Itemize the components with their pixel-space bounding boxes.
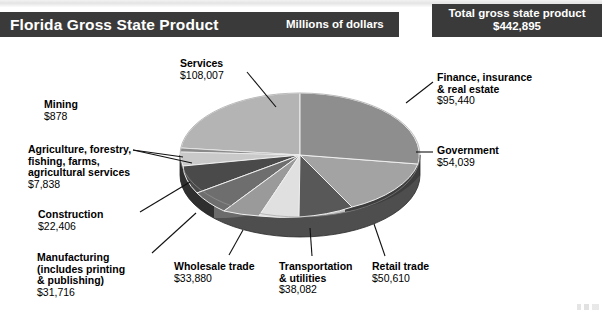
leader-wholesale xyxy=(229,230,243,255)
pie-slice-finance xyxy=(300,93,419,164)
label-services: Services $108,007 xyxy=(180,58,224,81)
label-manufacturing: Manufacturing (includes printing & publi… xyxy=(37,252,125,298)
leader-construction xyxy=(140,182,190,212)
label-mining: Mining $878 xyxy=(44,99,78,122)
pie-slice-services xyxy=(181,93,300,155)
label-construction-value: $22,406 xyxy=(38,221,103,233)
page-corner-artifact xyxy=(577,304,599,310)
label-government-name: Government xyxy=(437,145,499,157)
label-retail-trade-value: $50,610 xyxy=(372,273,429,285)
label-finance: Finance, insurance & real estate $95,440 xyxy=(437,72,532,107)
label-finance-value: $95,440 xyxy=(437,95,532,107)
label-wholesale-trade-value: $33,880 xyxy=(174,273,255,285)
label-agriculture: Agriculture, forestry, fishing, farms, a… xyxy=(28,144,131,190)
label-services-name: Services xyxy=(180,58,224,70)
label-manufacturing-name-1: Manufacturing xyxy=(37,252,125,264)
label-mining-name: Mining xyxy=(44,99,78,111)
label-transportation-value: $38,082 xyxy=(279,284,353,296)
leader-retail xyxy=(374,224,385,256)
label-transportation-name-1: Transportation xyxy=(279,261,353,273)
leader-manufacturing xyxy=(152,213,196,253)
label-wholesale-trade-name: Wholesale trade xyxy=(174,261,255,273)
label-agriculture-name-3: agricultural services xyxy=(28,167,131,179)
label-retail-trade: Retail trade $50,610 xyxy=(372,261,429,284)
label-government: Government $54,039 xyxy=(437,145,499,168)
label-agriculture-value: $7,838 xyxy=(28,179,131,191)
chart-page: Florida Gross State Product Millions of … xyxy=(0,0,602,312)
label-wholesale-trade: Wholesale trade $33,880 xyxy=(174,261,255,284)
label-manufacturing-value: $31,716 xyxy=(37,287,125,299)
label-services-value: $108,007 xyxy=(180,70,224,82)
leader-finance xyxy=(406,82,433,103)
label-transportation: Transportation & utilities $38,082 xyxy=(279,261,353,296)
label-retail-trade-name: Retail trade xyxy=(372,261,429,273)
label-finance-name-1: Finance, insurance xyxy=(437,72,532,84)
label-government-value: $54,039 xyxy=(437,157,499,169)
label-construction: Construction $22,406 xyxy=(38,209,103,232)
label-mining-value: $878 xyxy=(44,111,78,123)
label-manufacturing-name-3: & publishing) xyxy=(37,275,125,287)
label-construction-name: Construction xyxy=(38,209,103,221)
label-agriculture-name-1: Agriculture, forestry, xyxy=(28,144,131,156)
